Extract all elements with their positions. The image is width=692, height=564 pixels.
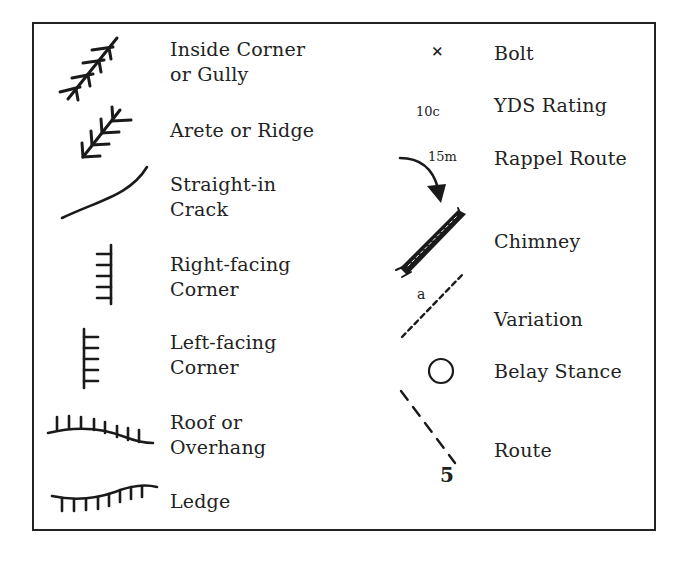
arete-icon bbox=[82, 107, 131, 157]
left-facing-corner-icon bbox=[84, 329, 98, 388]
label-arete: Arete or Ridge bbox=[170, 118, 314, 143]
chimney-icon bbox=[396, 208, 466, 277]
straight-crack-icon bbox=[62, 167, 147, 218]
route-icon bbox=[401, 391, 455, 463]
legend-symbols bbox=[0, 0, 692, 564]
label-roof: Roof or Overhang bbox=[170, 410, 266, 460]
label-chimney: Chimney bbox=[494, 229, 580, 254]
variation-icon bbox=[402, 273, 464, 337]
ledge-icon bbox=[52, 486, 157, 511]
bolt-glyph: × bbox=[431, 42, 444, 60]
label-variation: Variation bbox=[494, 307, 583, 332]
label-ledge: Ledge bbox=[170, 489, 230, 514]
rappel-icon bbox=[400, 158, 446, 203]
rappel-length-glyph: 15m bbox=[428, 149, 457, 164]
roof-icon bbox=[48, 416, 153, 443]
label-belay-stance: Belay Stance bbox=[494, 359, 622, 384]
label-inside-corner: Inside Corner or Gully bbox=[170, 37, 305, 87]
label-route: Route bbox=[494, 438, 552, 463]
route-pitch-number: 5 bbox=[440, 463, 454, 487]
yds-rating-glyph: 10c bbox=[416, 104, 440, 119]
label-rappel-route: Rappel Route bbox=[494, 146, 627, 171]
inside-corner-icon bbox=[60, 38, 117, 100]
label-yds-rating: YDS Rating bbox=[494, 93, 607, 118]
variation-letter-glyph: a bbox=[417, 286, 425, 302]
label-straight-crack: Straight-in Crack bbox=[170, 172, 276, 222]
label-bolt: Bolt bbox=[494, 41, 534, 66]
label-left-facing-corner: Left-facing Corner bbox=[170, 330, 277, 380]
label-right-facing-corner: Right-facing Corner bbox=[170, 252, 291, 302]
belay-stance-icon bbox=[429, 359, 453, 383]
right-facing-corner-icon bbox=[97, 245, 111, 304]
